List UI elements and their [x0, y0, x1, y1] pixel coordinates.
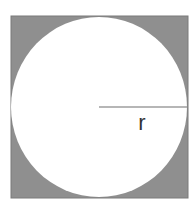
circle-in-square-diagram: r [0, 0, 195, 206]
radius-label: r [138, 110, 145, 135]
